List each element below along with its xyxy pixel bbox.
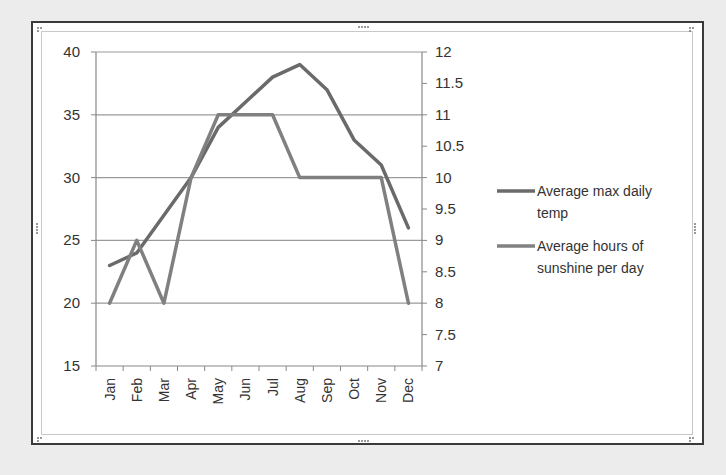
corner-handle-dot: [40, 27, 42, 29]
x-tick-label: May: [210, 378, 226, 404]
x-tick-label: Mar: [156, 378, 172, 402]
corner-handle-dot: [40, 437, 42, 439]
x-tick-label: Nov: [373, 378, 389, 403]
left-tick-label: 25: [63, 231, 80, 248]
legend: Average max dailytempAverage hours ofsun…: [497, 183, 652, 276]
resize-handle-dot: [694, 226, 696, 228]
series-line: [110, 65, 409, 266]
x-tick-label: Oct: [346, 378, 362, 400]
right-tick-label: 12: [435, 43, 452, 60]
left-tick-label: 15: [63, 357, 80, 374]
axes: [96, 52, 422, 366]
legend-label: Average max daily: [537, 183, 652, 199]
x-tick-label: Apr: [183, 378, 199, 400]
legend-label: sunshine per day: [537, 260, 644, 276]
corner-handle-dot: [692, 27, 694, 29]
resize-handle-dot: [694, 232, 696, 234]
corner-handle-dot: [689, 27, 691, 29]
x-tick-label: Jun: [237, 378, 253, 401]
corner-handle-dot: [37, 30, 39, 32]
corner-handle-dot: [37, 27, 39, 29]
right-tick-label: 9.5: [435, 200, 456, 217]
right-tick-label: 8.5: [435, 263, 456, 280]
resize-handle-dot: [694, 229, 696, 231]
resize-handle-dot: [358, 440, 360, 442]
right-tick-label: 11.5: [435, 74, 463, 91]
resize-handle-dot: [36, 229, 38, 231]
right-tick-label: 7.5: [435, 326, 456, 343]
left-axis-ticks: 152025303540: [63, 43, 96, 374]
series-line: [110, 115, 409, 303]
left-tick-label: 20: [63, 294, 80, 311]
resize-handle-dot: [367, 26, 369, 28]
corner-handle-dot: [37, 440, 39, 442]
x-tick-label: Sep: [319, 378, 335, 403]
resize-handle-dot: [36, 223, 38, 225]
resize-handle-dot: [361, 26, 363, 28]
resize-handle-dot: [358, 26, 360, 28]
corner-handle-dot: [692, 437, 694, 439]
x-tick-label: Dec: [400, 378, 416, 403]
corner-handle-dot: [37, 437, 39, 439]
line-chart: 152025303540 77.588.599.51010.51111.512 …: [0, 0, 726, 475]
corner-handle-dot: [689, 30, 691, 32]
resize-handle-dot: [36, 232, 38, 234]
resize-handle-dot: [361, 440, 363, 442]
legend-label: temp: [537, 205, 568, 221]
left-tick-label: 40: [63, 43, 80, 60]
x-tick-label: Feb: [129, 378, 145, 402]
resize-handle-dot: [364, 26, 366, 28]
right-tick-label: 10.5: [435, 137, 464, 154]
resize-handle-dot: [367, 440, 369, 442]
corner-handle-dot: [689, 440, 691, 442]
right-tick-label: 10: [435, 169, 452, 186]
resize-handle-dot: [364, 440, 366, 442]
left-tick-label: 35: [63, 106, 80, 123]
legend-label: Average hours of: [537, 238, 643, 254]
x-tick-label: Aug: [292, 378, 308, 403]
right-tick-label: 8: [435, 294, 443, 311]
x-tick-label: Jan: [102, 378, 118, 401]
x-tick-label: Jul: [265, 378, 281, 396]
right-axis-ticks: 77.588.599.51010.51111.512: [422, 43, 464, 374]
resize-handle-dot: [694, 223, 696, 225]
left-tick-label: 30: [63, 169, 80, 186]
corner-handle-dot: [689, 437, 691, 439]
series-lines: [110, 65, 409, 304]
right-tick-label: 7: [435, 357, 443, 374]
right-tick-label: 9: [435, 231, 443, 248]
x-axis-ticks: JanFebMarAprMayJunJulAugSepOctNovDec: [96, 366, 422, 404]
right-tick-label: 11: [435, 106, 451, 123]
resize-handle-dot: [36, 226, 38, 228]
